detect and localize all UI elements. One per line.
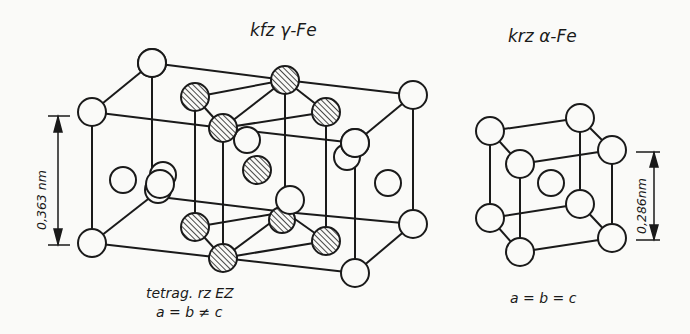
right-dimension-label: 0,286nm [634, 178, 649, 234]
bcc-atoms [476, 104, 626, 266]
left-caption-lattice-params: a = b ≠ c [156, 304, 222, 320]
right-caption-lattice-params: a = b = c [510, 290, 576, 306]
left-dimension-label: 0,363 nm [34, 170, 49, 230]
dimension-arrow-left [48, 116, 70, 245]
right-structure-title: krz α-Fe [508, 26, 577, 46]
crystal-lattice-diagram [0, 0, 690, 334]
fcc-atoms [78, 49, 427, 287]
left-structure-title: kfz γ-Fe [250, 20, 317, 40]
left-caption-cell-type: tetrag. rz EZ [146, 285, 234, 301]
